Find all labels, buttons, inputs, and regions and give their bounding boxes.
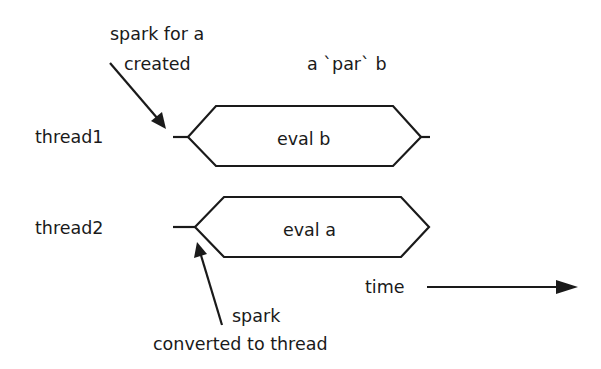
time-arrow-icon (427, 280, 578, 294)
time-axis-label: time (365, 277, 405, 297)
spark-created-label-line1: spark for a (110, 24, 204, 44)
spark-converted-label-line2: converted to thread (153, 334, 328, 354)
thread1-label: thread1 (35, 127, 104, 147)
spark-created-label-line2: created (124, 54, 191, 74)
title-label: a `par` b (307, 54, 387, 74)
thread2-label: thread2 (35, 218, 104, 238)
spark-converted-arrow-icon (194, 242, 222, 325)
spark-converted-label-line1: spark (232, 306, 281, 326)
thread2-box-label: eval a (283, 220, 336, 240)
thread1-box-label: eval b (277, 129, 330, 149)
par-timeline-diagram: a `par` b spark for a created thread1 ev… (0, 0, 601, 369)
